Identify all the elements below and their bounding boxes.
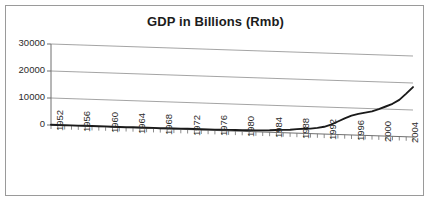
y-axis-label: 0 [1, 119, 45, 129]
y-axis-label: 10000 [1, 92, 45, 102]
gridline-10000 [51, 98, 413, 110]
x-axis-label: 1964 [137, 113, 147, 134]
chart-canvas [6, 6, 425, 197]
x-axis-label: 1976 [219, 115, 229, 136]
x-axis-label: 2004 [410, 122, 420, 143]
x-axis-label: 1988 [301, 118, 311, 139]
x-axis-label: 1968 [164, 113, 174, 134]
gridline-30000 [51, 44, 413, 56]
chart-frame: GDP in Billions (Rmb) [5, 5, 424, 196]
y-tick-marks [47, 44, 51, 125]
x-axis-label: 1984 [274, 117, 284, 138]
x-axis-label: 1996 [356, 120, 366, 141]
chart-screenshot: GDP in Billions (Rmb) [0, 0, 438, 204]
x-axis-label: 1952 [55, 110, 65, 131]
x-axis-label: 1956 [82, 111, 92, 132]
x-axis-label: 2000 [383, 121, 393, 142]
y-axis-label: 30000 [1, 38, 45, 48]
y-axis-label: 20000 [1, 65, 45, 75]
x-axis-label: 1980 [246, 116, 256, 137]
x-axis-label: 1992 [328, 119, 338, 140]
x-axis-label: 1972 [192, 114, 202, 135]
gridline-20000 [51, 71, 413, 83]
plot-area: 3000020000100000 19521956196019641968197… [6, 6, 425, 197]
x-axis-label: 1960 [110, 112, 120, 133]
